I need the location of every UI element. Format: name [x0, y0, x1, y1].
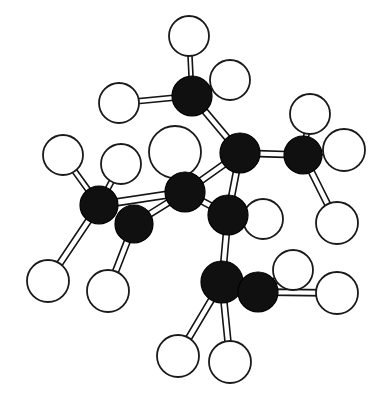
atom-h-h7 — [149, 126, 201, 178]
atom-h-h5 — [323, 129, 365, 171]
atom-h-h10 — [243, 199, 283, 239]
atom-h-h13 — [157, 335, 199, 377]
atom-h-h16 — [316, 272, 358, 314]
atom-c-c7 — [115, 205, 153, 243]
atom-h-h12 — [87, 270, 129, 312]
atom-h-h6 — [316, 202, 358, 244]
atom-h-h3 — [99, 83, 139, 123]
atom-c-c1 — [172, 76, 212, 116]
atom-h-h14 — [209, 341, 251, 383]
atom-c-c5 — [208, 195, 248, 235]
atom-c-c8 — [201, 261, 243, 303]
atom-h-h15 — [273, 250, 313, 290]
atom-c-c6 — [80, 186, 118, 224]
molecule-canvas — [0, 0, 379, 404]
atom-c-c3 — [284, 136, 322, 174]
atom-c-c4 — [165, 172, 205, 212]
molecule-figure — [0, 0, 379, 404]
atom-h-h11 — [27, 260, 69, 302]
atom-h-h1 — [169, 16, 209, 56]
atom-h-h2 — [210, 60, 250, 100]
atom-c-c2 — [220, 133, 260, 173]
atom-h-h8 — [101, 144, 141, 184]
atom-h-h9 — [43, 135, 83, 175]
atom-c-c9 — [238, 272, 278, 312]
atom-h-h4 — [290, 94, 330, 134]
